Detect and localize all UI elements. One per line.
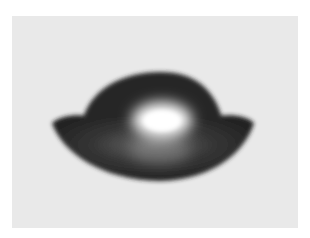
droplet-object	[0, 0, 310, 238]
lower-reflection	[130, 136, 190, 164]
